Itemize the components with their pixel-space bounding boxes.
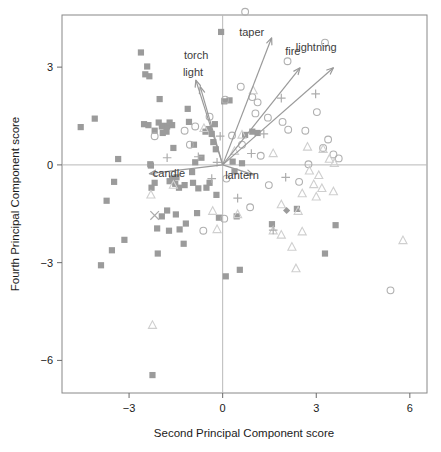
y-axis-title: Fourth Principal Component score <box>9 117 21 292</box>
x-tick-label: 3 <box>313 402 319 414</box>
data-point-square <box>194 210 200 216</box>
data-point-square <box>173 211 179 217</box>
y-tick-label: 0 <box>47 159 53 171</box>
data-point-square <box>183 220 189 226</box>
data-point-square <box>239 160 245 166</box>
vector-label-light: light <box>183 66 203 78</box>
data-point-square <box>237 267 243 273</box>
figure-background <box>0 0 441 452</box>
data-point-square <box>152 180 158 186</box>
data-point-square <box>78 124 84 130</box>
x-tick-label: 6 <box>407 402 413 414</box>
data-point-square <box>164 207 170 213</box>
data-point-square <box>213 192 219 198</box>
data-point-square <box>163 129 169 135</box>
data-point-square <box>166 228 172 234</box>
data-point-square <box>177 226 183 232</box>
vector-label-torch: torch <box>184 49 208 61</box>
x-axis-title: Second Principal Component score <box>154 427 334 439</box>
data-point-square <box>92 116 98 122</box>
data-point-square <box>159 213 165 219</box>
data-point-square <box>155 250 161 256</box>
data-point-square <box>192 159 198 165</box>
data-point-square <box>181 241 187 247</box>
data-point-square <box>154 225 160 231</box>
data-point-square <box>115 156 121 162</box>
data-point-square <box>186 119 192 125</box>
data-point-square <box>145 122 151 128</box>
data-point-square <box>218 29 224 35</box>
data-point-square <box>195 185 201 191</box>
pca-biplot-figure: −303630−3−6 torchlighttaperfirelightning… <box>0 0 441 452</box>
data-point-square <box>109 247 115 253</box>
data-point-square <box>332 222 338 228</box>
data-point-square <box>189 169 195 175</box>
data-point-square <box>269 221 275 227</box>
data-point-square <box>142 71 148 77</box>
data-point-square <box>98 262 104 268</box>
data-point-square <box>111 179 117 185</box>
data-point-square <box>157 96 163 102</box>
data-point-square <box>230 159 236 165</box>
x-tick-label: −3 <box>123 402 136 414</box>
vector-label-lightning: lightning <box>296 41 337 53</box>
data-point-square <box>138 49 144 55</box>
data-point-square <box>144 63 150 69</box>
data-point-square <box>212 121 218 127</box>
data-point-square <box>190 180 196 186</box>
vector-label-taper: taper <box>239 26 264 38</box>
data-point-square <box>185 106 191 112</box>
data-point-square <box>198 155 204 161</box>
data-point-square <box>182 182 188 188</box>
vector-label-lantern: lantern <box>225 169 259 181</box>
y-tick-label: −6 <box>40 354 53 366</box>
y-tick-label: 3 <box>47 61 53 73</box>
data-point-square <box>322 250 328 256</box>
data-point-square <box>104 198 110 204</box>
data-point-square <box>169 122 175 128</box>
data-point-square <box>170 145 176 151</box>
y-tick-label: −3 <box>40 257 53 269</box>
data-point-square <box>223 273 229 279</box>
plot-canvas: −303630−3−6 torchlighttaperfirelightning… <box>0 0 441 452</box>
x-tick-label: 0 <box>220 402 226 414</box>
data-point-square <box>121 237 127 243</box>
data-point-square <box>149 372 155 378</box>
vector-label-candle: candle <box>153 167 185 179</box>
